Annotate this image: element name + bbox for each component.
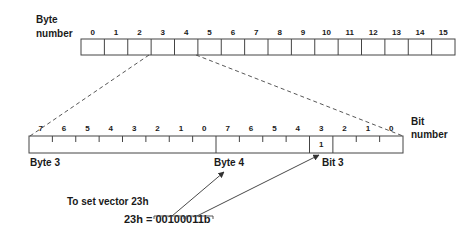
- zoom-dashed-lines: [30, 55, 403, 136]
- binary-brackets: [154, 216, 213, 219]
- arrow-to-byte4: [172, 172, 224, 216]
- bit-row: [29, 136, 403, 153]
- diagram-lines: [0, 0, 476, 239]
- byte-row: [81, 39, 455, 55]
- pointer-arrows: [172, 155, 319, 216]
- arrow-to-bit3: [197, 155, 319, 216]
